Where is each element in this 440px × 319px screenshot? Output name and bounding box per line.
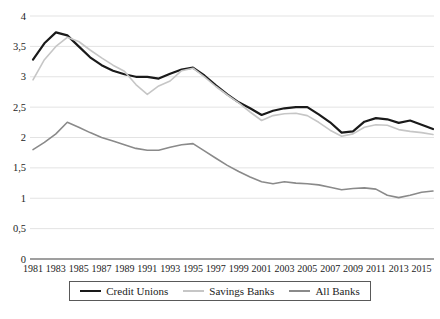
- x-tick-label: 1987: [92, 263, 112, 274]
- legend-line-swatch: [80, 290, 101, 292]
- series-line-all-banks: [33, 122, 433, 197]
- x-tick-label: 1985: [69, 263, 89, 274]
- legend-box: Credit UnionsSavings BanksAll Banks: [69, 281, 370, 301]
- y-tick-label: 3: [21, 71, 26, 82]
- x-tick-label: 1989: [114, 263, 134, 274]
- y-tick-label: 3,5: [13, 41, 26, 52]
- legend-line-swatch: [289, 290, 310, 292]
- x-tick-label: 2003: [274, 263, 294, 274]
- y-tick-label: 1: [21, 193, 26, 204]
- x-tick-label: 1999: [229, 263, 249, 274]
- legend-label: All Banks: [315, 285, 359, 297]
- legend-line-swatch: [183, 290, 204, 292]
- legend-label: Savings Banks: [209, 285, 274, 297]
- legend-item-all-banks: All Banks: [289, 285, 359, 297]
- x-tick-label: 1993: [160, 263, 180, 274]
- x-tick-label: 2007: [320, 263, 340, 274]
- y-tick-label: 1,5: [13, 162, 26, 173]
- x-tick-label: 1995: [183, 263, 203, 274]
- y-tick-label: 0,5: [13, 223, 26, 234]
- interest-margin-chart: 00,511,522,533,5419811983198519871989199…: [0, 0, 440, 319]
- x-tick-label: 2013: [389, 263, 409, 274]
- x-tick-label: 1991: [137, 263, 157, 274]
- legend-label: Credit Unions: [106, 285, 168, 297]
- series-line-savings-banks: [33, 37, 433, 136]
- legend-item-credit-unions: Credit Unions: [80, 285, 168, 297]
- x-tick-label: 1997: [206, 263, 226, 274]
- plot-area: 00,511,522,533,5419811983198519871989199…: [0, 0, 440, 280]
- y-tick-label: 4: [21, 11, 27, 22]
- legend-item-savings-banks: Savings Banks: [183, 285, 274, 297]
- x-tick-label: 2015: [412, 263, 432, 274]
- x-tick-label: 1983: [46, 263, 66, 274]
- x-tick-label: 2005: [297, 263, 317, 274]
- x-tick-label: 1981: [23, 263, 43, 274]
- x-tick-label: 2001: [252, 263, 272, 274]
- y-tick-label: 2: [21, 132, 26, 143]
- y-tick-label: 2,5: [13, 102, 26, 113]
- x-tick-label: 2011: [366, 263, 386, 274]
- series-line-credit-unions: [33, 32, 433, 132]
- x-tick-label: 2009: [343, 263, 363, 274]
- chart-legend: Credit UnionsSavings BanksAll Banks: [0, 281, 440, 301]
